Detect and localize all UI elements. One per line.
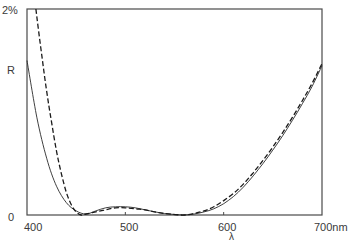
x-tick-label-400: 400 [24, 221, 42, 233]
series-dashed-line [36, 9, 322, 215]
y-tick-top-label: 2% [2, 4, 18, 16]
chart-plot-area [0, 0, 354, 241]
x-tick-label-500: 500 [120, 221, 138, 233]
plot-frame [27, 9, 322, 215]
x-tick-label-700: 700nm [314, 221, 348, 233]
series-solid-line [27, 61, 322, 216]
y-tick-zero-label: 0 [8, 211, 14, 223]
x-axis-label: λ [229, 231, 234, 241]
y-axis-label: R [7, 64, 15, 76]
